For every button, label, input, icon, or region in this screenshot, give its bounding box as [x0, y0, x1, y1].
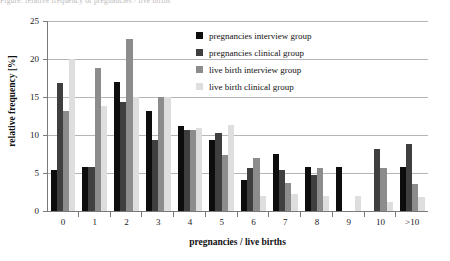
- legend-label: pregnancies clinical group: [209, 48, 304, 58]
- legend-swatch: [196, 49, 203, 56]
- legend-item[interactable]: pregnancies clinical group: [196, 44, 406, 61]
- x-tick-label: 7: [269, 216, 301, 230]
- bar: [418, 197, 424, 211]
- x-axis-ticklabels: 012345678910>10: [47, 216, 428, 230]
- legend-label: live birth clinical group: [209, 82, 294, 92]
- chart-legend: pregnancies interview grouppregnancies c…: [196, 27, 406, 95]
- y-tick-label: 10: [30, 131, 39, 140]
- x-tick-label: 10: [365, 216, 397, 230]
- bar: [133, 97, 139, 211]
- bar: [291, 194, 297, 211]
- figure-container: Figure: relative frequency of pregnancie…: [0, 0, 450, 261]
- y-axis-title: relative frequency [%]: [7, 21, 17, 181]
- y-tick-label: 25: [30, 17, 39, 26]
- y-tick-label: 5: [35, 169, 40, 178]
- x-tick-label: 5: [206, 216, 238, 230]
- bar: [69, 59, 75, 211]
- legend-swatch: [196, 83, 203, 90]
- x-tick-label: 4: [174, 216, 206, 230]
- bar-group: [142, 21, 174, 211]
- x-tick-label: 9: [333, 216, 365, 230]
- bar: [101, 106, 107, 211]
- legend-item[interactable]: live birth interview group: [196, 61, 406, 78]
- x-tick-label: 2: [111, 216, 143, 230]
- legend-label: pregnancies interview group: [209, 31, 311, 41]
- bar-group: [111, 21, 143, 211]
- x-tick-label: 3: [142, 216, 174, 230]
- bar: [196, 128, 202, 211]
- x-tick-label: >10: [396, 216, 428, 230]
- y-tick-mark: [43, 211, 48, 212]
- x-tick-label: 0: [47, 216, 79, 230]
- x-axis-title: pregnancies / live births: [47, 237, 428, 247]
- legend-item[interactable]: pregnancies interview group: [196, 27, 406, 44]
- legend-swatch: [196, 32, 203, 39]
- bar: [164, 97, 170, 211]
- x-tick-label: 6: [238, 216, 270, 230]
- x-tick-label: 8: [301, 216, 333, 230]
- bar: [228, 125, 234, 211]
- y-tick-label: 0: [35, 207, 40, 216]
- y-tick-label: 15: [30, 93, 39, 102]
- cropped-caption: Figure: relative frequency of pregnancie…: [0, 0, 450, 10]
- bar: [323, 196, 329, 211]
- x-axis-line: [47, 211, 428, 212]
- x-tick-label: 1: [79, 216, 111, 230]
- bar: [387, 202, 393, 211]
- legend-label: live birth interview group: [209, 65, 301, 75]
- legend-item[interactable]: live birth clinical group: [196, 78, 406, 95]
- bar: [336, 167, 342, 211]
- bar: [260, 196, 266, 211]
- legend-swatch: [196, 66, 203, 73]
- bar-group: [47, 21, 79, 211]
- y-tick-label: 20: [30, 55, 39, 64]
- bar: [355, 196, 361, 211]
- bar-group: [79, 21, 111, 211]
